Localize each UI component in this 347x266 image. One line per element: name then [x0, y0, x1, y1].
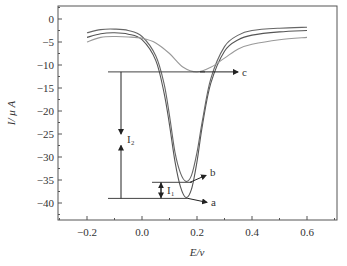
y-tick-label: −35: [37, 174, 55, 186]
y-tick-label: −25: [37, 128, 55, 140]
x-tick-label: 0.0: [135, 226, 149, 238]
y-tick-label: −10: [37, 59, 55, 71]
x-axis-label: E/v: [189, 246, 205, 258]
y-tick-label: −15: [37, 82, 55, 94]
label-a: a: [211, 196, 216, 208]
curve-a: [87, 31, 307, 198]
y-tick-label: −40: [37, 197, 55, 209]
label-c: c: [242, 66, 247, 78]
curve-c: [87, 36, 307, 71]
y-tick-label: −5: [42, 36, 54, 48]
y-tick-label: 0: [49, 13, 55, 25]
label-I2: I₂: [127, 133, 135, 145]
x-tick-label: 0.4: [245, 226, 259, 238]
y-tick-label: −30: [37, 151, 55, 163]
x-tick-label: 0.2: [190, 226, 204, 238]
label-I1: I₁: [167, 184, 175, 196]
y-axis-label: I/ μ A: [5, 100, 17, 126]
label-b: b: [210, 166, 216, 178]
x-tick-label: −0.2: [77, 226, 97, 238]
chart: 0−5−10−15−20−25−30−35−40−0.20.00.20.40.6…: [0, 0, 347, 266]
x-tick-label: 0.6: [300, 226, 314, 238]
y-tick-label: −20: [37, 105, 55, 117]
